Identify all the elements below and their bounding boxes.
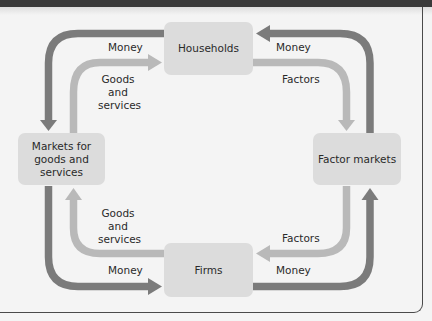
label-bottom-left-money: Money	[108, 264, 143, 277]
arrowhead-icon	[65, 188, 82, 200]
label-bottom-right-factors: Factors	[282, 232, 320, 245]
label-bottom-right-money: Money	[276, 264, 311, 277]
node-goods-markets-label: Markets for goods and services	[24, 140, 99, 179]
label-bottom-left-goods: Goods and services	[98, 207, 138, 246]
node-households: Households	[164, 22, 253, 75]
arrowhead-icon	[148, 54, 162, 71]
label-top-left-money: Money	[108, 41, 143, 54]
label-top-right-money: Money	[276, 41, 311, 54]
node-households-label: Households	[178, 42, 239, 55]
arrowhead-icon	[148, 278, 162, 295]
arrowhead-icon	[40, 120, 57, 131]
label-top-right-factors: Factors	[282, 73, 320, 86]
factor-flow-households-to-factor-markets	[253, 63, 347, 123]
node-goods-markets: Markets for goods and services	[18, 133, 105, 185]
label-top-left-goods: Goods and services	[98, 73, 138, 112]
arrowhead-icon	[362, 188, 379, 200]
node-firms: Firms	[164, 243, 253, 297]
node-factor-markets: Factor markets	[313, 133, 401, 185]
arrowhead-icon	[338, 120, 355, 131]
node-factor-markets-label: Factor markets	[318, 153, 396, 166]
arrowhead-icon	[256, 245, 270, 262]
arrowhead-icon	[256, 25, 270, 42]
node-firms-label: Firms	[194, 264, 222, 277]
